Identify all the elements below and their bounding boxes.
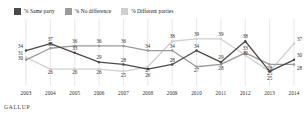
data-label-different-parties-2011: 39 — [218, 31, 224, 37]
data-point-same-party-2003 — [25, 49, 28, 52]
data-label-same-party-2008: 26 — [145, 72, 151, 78]
chart-svg: 3431303735263633263629263628253427263834… — [0, 19, 308, 89]
x-tick-2003: 2003 — [21, 90, 32, 96]
data-label-same-party-2006: 29 — [97, 54, 103, 60]
data-label-different-parties-2009: 38 — [170, 33, 176, 39]
data-point-same-party-2009 — [171, 63, 174, 65]
x-tick-2010: 2010 — [191, 90, 202, 96]
data-point-no-difference-2007 — [122, 45, 125, 48]
data-label-same-party-2014: 30 — [297, 52, 303, 58]
x-tick-2004: 2004 — [45, 90, 56, 96]
legend-swatch-diff — [121, 8, 128, 15]
data-label-no-difference-2008: 34 — [145, 43, 151, 49]
data-label-different-parties-2004: 26 — [48, 69, 54, 75]
x-tick-2011: 2011 — [216, 90, 227, 96]
data-label-different-parties-2005: 26 — [72, 69, 78, 75]
chart-legend: % Same party% No difference% Different p… — [0, 4, 308, 18]
data-label-different-parties-2014: 37 — [297, 36, 303, 42]
x-tick-2005: 2005 — [69, 90, 80, 96]
data-label-same-party-2005: 33 — [72, 45, 78, 51]
data-point-no-difference-2003 — [25, 59, 28, 62]
data-point-different-parties-2003 — [25, 56, 28, 59]
x-axis-tick-labels: 2003200420052006200720082009201020112012… — [0, 90, 308, 100]
data-label-same-party-2012: 38 — [243, 33, 249, 39]
legend-label-same: % Same party — [24, 8, 55, 14]
x-tick-2013: 2013 — [264, 90, 275, 96]
data-point-no-difference-2006 — [98, 45, 101, 48]
data-labels: 3431303735263633263629263628253427263834… — [18, 31, 303, 81]
data-label-no-difference-2010: 27 — [194, 67, 200, 73]
data-point-same-party-2010 — [195, 49, 198, 52]
data-label-different-parties-2010: 39 — [194, 31, 200, 37]
data-point-no-difference-2009 — [171, 49, 174, 52]
x-tick-2007: 2007 — [118, 90, 129, 96]
x-tick-2012: 2012 — [240, 90, 251, 96]
x-tick-2006: 2006 — [94, 90, 105, 96]
data-point-different-parties-2014 — [293, 42, 296, 45]
data-label-no-difference-2007: 36 — [121, 38, 127, 44]
data-label-same-party-2007: 28 — [121, 57, 127, 63]
data-label-different-parties-2012: 32 — [243, 50, 249, 56]
data-label-different-parties-2006: 26 — [97, 69, 103, 75]
series-same-party — [25, 40, 296, 73]
legend-item-nodiff: % No difference — [65, 8, 111, 15]
data-label-no-difference-2014: 28 — [297, 65, 303, 71]
data-label-no-difference-2005: 36 — [72, 38, 78, 44]
data-point-different-parties-2011 — [220, 38, 223, 41]
data-label-no-difference-2004: 35 — [48, 41, 54, 47]
x-tick-2009: 2009 — [167, 90, 178, 96]
data-point-same-party-2014 — [293, 59, 296, 62]
data-point-no-difference-2008 — [147, 49, 150, 52]
data-point-no-difference-2014 — [293, 63, 296, 65]
data-point-same-party-2011 — [220, 61, 223, 64]
data-point-same-party-2005 — [73, 52, 76, 55]
legend-swatch-nodiff — [65, 8, 72, 15]
data-point-same-party-2007 — [122, 63, 125, 65]
data-point-same-party-2006 — [98, 61, 101, 64]
source-attribution: GALLUP — [4, 104, 30, 110]
data-point-no-difference-2004 — [49, 47, 52, 50]
data-label-no-difference-2011: 28 — [218, 65, 224, 71]
legend-item-diff: % Different parties — [121, 8, 173, 15]
chart-root: % Same party% No difference% Different p… — [0, 0, 308, 120]
data-label-same-party-2010: 34 — [194, 43, 200, 49]
data-label-same-party-2009: 28 — [170, 57, 176, 63]
legend-label-nodiff: % No difference — [75, 8, 111, 14]
data-point-different-parties-2010 — [195, 38, 198, 41]
x-tick-2014: 2014 — [289, 90, 300, 96]
legend-item-same: % Same party — [14, 8, 55, 15]
legend-label-diff: % Different parties — [131, 8, 173, 14]
data-label-no-difference-2009: 34 — [170, 43, 176, 49]
x-tick-2008: 2008 — [142, 90, 153, 96]
series-no-difference — [25, 45, 296, 68]
data-label-different-parties-2013: 25 — [267, 75, 273, 81]
chart-plot-area: 3431303735263633263629263628253427263834… — [0, 19, 308, 89]
data-label-no-difference-2006: 36 — [97, 38, 103, 44]
legend-swatch-same — [14, 8, 21, 15]
data-label-same-party-2011: 29 — [218, 54, 224, 60]
data-label-same-party-2003: 34 — [18, 43, 24, 49]
data-point-same-party-2012 — [244, 40, 247, 43]
data-label-different-parties-2007: 25 — [121, 72, 127, 78]
data-label-no-difference-2003: 30 — [18, 55, 24, 61]
